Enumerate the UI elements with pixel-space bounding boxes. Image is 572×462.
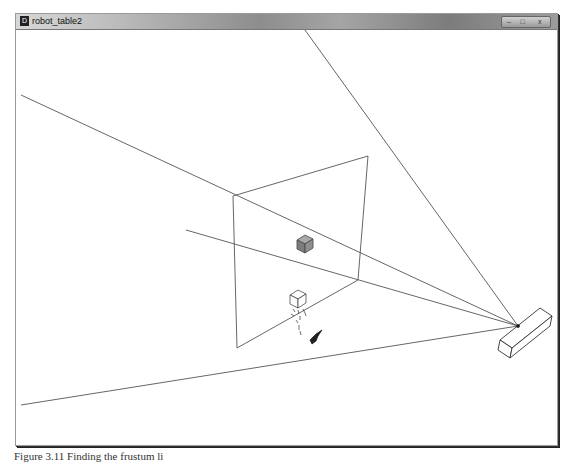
- figure-caption: Figure 3.11 Finding the frustum li: [14, 450, 163, 462]
- frustum-line-top: [305, 30, 518, 326]
- robot-model: [290, 290, 322, 344]
- near-plane: [233, 156, 368, 348]
- scene-render: [0, 0, 572, 446]
- frustum-line-left: [21, 95, 518, 326]
- target-cube: [297, 235, 313, 253]
- frustum-line-bottom: [21, 326, 518, 405]
- camera-box: [498, 308, 552, 358]
